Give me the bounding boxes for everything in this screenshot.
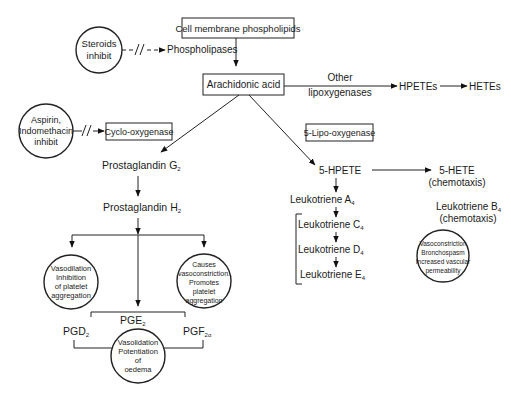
svg-text:Cell membrane phospholipids: Cell membrane phospholipids bbox=[175, 23, 300, 34]
svg-text:Leukotriene C4: Leukotriene C4 bbox=[298, 219, 364, 231]
5-hete-label: 5-HETE bbox=[439, 165, 475, 176]
lipoxygenases-label: lipoxygenases bbox=[308, 87, 371, 98]
hpetes-label: HPETEs bbox=[399, 81, 437, 92]
prostaglandin-g2-node: Prostaglandin G2 bbox=[102, 159, 181, 172]
svg-text:Leukotriene B4: Leukotriene B4 bbox=[436, 201, 502, 213]
svg-text:inhibit: inhibit bbox=[34, 137, 58, 147]
svg-text:Arachidonic acid: Arachidonic acid bbox=[207, 79, 280, 90]
svg-text:permeability: permeability bbox=[425, 267, 461, 275]
svg-text:Indomethacin: Indomethacin bbox=[19, 126, 73, 136]
steroid-inhibition-arrow bbox=[122, 44, 165, 55]
vasoconstriction-effect-node: Causes vasoconstriction. Promotes platel… bbox=[177, 254, 231, 308]
svg-text:Vasodilation: Vasodilation bbox=[51, 264, 91, 273]
svg-text:Potentiation: Potentiation bbox=[118, 347, 158, 356]
svg-text:Vasoconstriction: Vasoconstriction bbox=[419, 240, 467, 247]
svg-text:vasoconstriction.: vasoconstriction. bbox=[178, 270, 230, 277]
svg-text:Steroids: Steroids bbox=[82, 38, 117, 49]
svg-text:Aspirin,: Aspirin, bbox=[31, 115, 61, 125]
cell-membrane-node: Cell membrane phospholipids bbox=[175, 18, 300, 38]
svg-text:platelet: platelet bbox=[193, 288, 216, 296]
svg-text:Vasolidation: Vasolidation bbox=[118, 338, 158, 347]
pathway-diagram: Cell membrane phospholipids Steroids inh… bbox=[0, 0, 511, 396]
svg-text:inhibit: inhibit bbox=[87, 50, 112, 61]
arachidonic-acid-node: Arachidonic acid bbox=[203, 74, 284, 95]
svg-text:PGF2α: PGF2α bbox=[183, 325, 212, 338]
svg-text:Prostaglandin G2: Prostaglandin G2 bbox=[102, 159, 181, 172]
leukotriene-a4-node: Leukotriene A4 bbox=[290, 194, 355, 206]
arrow-aa-to-pgg bbox=[161, 95, 239, 152]
leukotriene-c4-node: Leukotriene C4 bbox=[298, 219, 364, 231]
vasolidation-oedema-node: Vasolidation Potentiation of oedema bbox=[111, 329, 165, 383]
pgf2a-node: PGF2α bbox=[183, 325, 212, 338]
pge2-bracket: PGE2 bbox=[91, 312, 185, 327]
leukotriene-e4-node: Leukotriene E4 bbox=[300, 269, 366, 281]
other-label: Other bbox=[327, 72, 353, 83]
svg-text:Cyclo-oxygenase: Cyclo-oxygenase bbox=[104, 127, 173, 137]
5-hete-note: (chemotaxis) bbox=[428, 177, 485, 188]
svg-text:(chemotaxis): (chemotaxis) bbox=[439, 213, 496, 224]
aspirin-inhibit-node: Aspirin, Indomethacin inhibit bbox=[19, 104, 73, 158]
svg-text:of platelet: of platelet bbox=[55, 282, 88, 291]
svg-text:Bronchospasm: Bronchospasm bbox=[421, 249, 464, 257]
svg-text:Leukotriene A4: Leukotriene A4 bbox=[290, 194, 355, 206]
prostaglandin-h2-node: Prostaglandin H2 bbox=[103, 201, 182, 214]
5-lipo-oxygenase-node: 5-Lipo-oxygenase bbox=[304, 124, 376, 141]
pgd2-node: PGD2 bbox=[63, 325, 90, 338]
svg-text:Leukotriene D4: Leukotriene D4 bbox=[298, 244, 364, 256]
steroids-inhibit-node: Steroids inhibit bbox=[76, 27, 122, 73]
svg-text:Promotes: Promotes bbox=[189, 279, 219, 286]
leukotriene-effect-node: Vasoconstriction Bronchospasm Increased … bbox=[416, 230, 471, 282]
svg-text:Increased vascular: Increased vascular bbox=[416, 258, 471, 265]
5-hpete-label: 5-HPETE bbox=[319, 165, 362, 176]
svg-text:aggregation: aggregation bbox=[186, 297, 223, 305]
svg-text:Inhibition: Inhibition bbox=[56, 273, 86, 282]
svg-text:PGD2: PGD2 bbox=[63, 325, 90, 338]
svg-text:PGE2: PGE2 bbox=[120, 314, 146, 327]
svg-text:aggregation: aggregation bbox=[51, 291, 91, 300]
leukotriene-b4-node: Leukotriene B4 (chemotaxis) bbox=[436, 201, 502, 224]
leukotriene-d4-node: Leukotriene D4 bbox=[298, 244, 364, 256]
svg-text:oedema: oedema bbox=[124, 365, 152, 374]
hetes-label: HETEs bbox=[469, 81, 501, 92]
vasodilation-effect-node: Vasodilation Inhibition of platelet aggr… bbox=[44, 255, 98, 309]
svg-text:Leukotriene E4: Leukotriene E4 bbox=[300, 269, 366, 281]
phospholipases-label: Phospholipases bbox=[167, 44, 238, 55]
svg-text:Causes: Causes bbox=[192, 261, 216, 268]
svg-text:5-Lipo-oxygenase: 5-Lipo-oxygenase bbox=[304, 128, 376, 138]
svg-text:Prostaglandin H2: Prostaglandin H2 bbox=[103, 201, 182, 214]
cyclo-oxygenase-node: Cyclo-oxygenase bbox=[104, 123, 173, 140]
aspirin-inhibition-arrow bbox=[73, 125, 104, 136]
svg-text:of: of bbox=[135, 356, 142, 365]
